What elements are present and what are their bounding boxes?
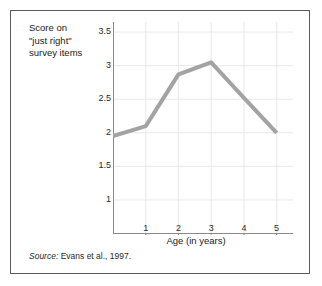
y-axis-tick-label: 3	[85, 60, 111, 70]
line-chart-svg	[113, 22, 293, 235]
x-axis-tick-label: 1	[136, 223, 156, 233]
x-axis-title: Age (in years)	[111, 235, 281, 246]
plot-area	[113, 22, 293, 235]
figure-panel: Score on "just right" survey items 11.52…	[10, 10, 310, 274]
y-axis-tick-labels: 11.522.533.5	[83, 22, 111, 235]
x-axis-tick-label: 5	[267, 223, 287, 233]
x-axis-tick-label: 4	[234, 223, 254, 233]
y-axis-tick-label: 3.5	[85, 26, 111, 36]
source-note: Source: Evans et al., 1997.	[29, 251, 131, 261]
y-axis-tick-label: 2.5	[85, 93, 111, 103]
y-axis-tick-label: 2	[85, 127, 111, 137]
source-citation: Evans et al., 1997.	[58, 251, 131, 261]
y-axis-tick-label: 1	[85, 194, 111, 204]
x-axis-tick-label: 3	[201, 223, 221, 233]
y-axis-tick-label: 1.5	[85, 160, 111, 170]
source-label: Source:	[29, 251, 58, 261]
x-axis-tick-label: 2	[168, 223, 188, 233]
